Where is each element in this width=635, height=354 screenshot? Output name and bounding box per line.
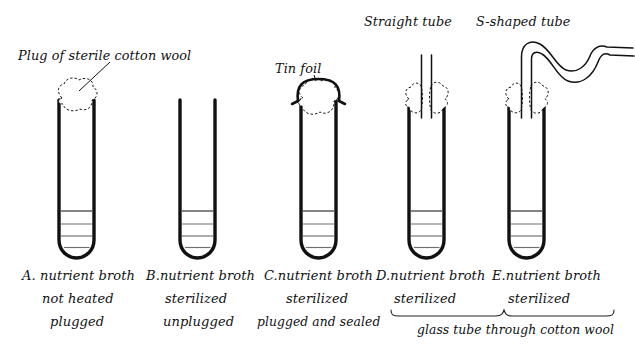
tube-c-group: Tin foil C.nutrient broth sterilized plu…	[257, 61, 380, 329]
diagram-canvas: Plug of sterile cotton wool A. nutrient …	[0, 0, 635, 354]
straight-tube-label: Straight tube	[364, 14, 452, 29]
tube-b-glass	[180, 100, 215, 258]
s-shaped-glass-tube-outer-wall	[532, 52, 635, 118]
brace-group: glass tube through cotton wool	[391, 310, 614, 337]
tube-a-glass	[59, 100, 94, 258]
tube-a-group: Plug of sterile cotton wool A. nutrient …	[17, 48, 191, 329]
tube-d-caption-line1: D.nutrient broth	[375, 268, 485, 283]
tube-c-caption-line1: C.nutrient broth	[264, 268, 373, 283]
tube-e-glass	[509, 100, 544, 258]
tube-a-caption-line2: not heated	[42, 291, 114, 306]
tube-c-caption-line3: plugged and sealed	[257, 315, 380, 329]
tube-b-caption-line2: sterilized	[165, 291, 227, 306]
tube-d-group: Straight tube D.nutrient broth sterilize…	[364, 14, 485, 306]
tube-a-caption-line1: A. nutrient broth	[21, 268, 135, 283]
tube-d-glass	[409, 100, 444, 258]
tube-d-caption-line2: sterilized	[394, 291, 456, 306]
tube-b-caption-line3: unplugged	[163, 314, 234, 329]
cotton-wool-leader-line	[79, 62, 110, 91]
tube-a-caption-line3: plugged	[50, 314, 104, 329]
glass-tube-brace	[391, 310, 614, 316]
tube-b-group: B.nutrient broth sterilized unplugged	[145, 100, 255, 329]
tube-c-glass	[301, 100, 336, 258]
tube-c-cotton-wool	[299, 79, 339, 114]
tube-c-caption-line2: sterilized	[286, 291, 348, 306]
tube-e-caption-line1: E.nutrient broth	[491, 268, 601, 283]
tube-e-caption-line2: sterilized	[508, 291, 570, 306]
brace-label: glass tube through cotton wool	[417, 323, 614, 337]
cotton-wool-label: Plug of sterile cotton wool	[17, 48, 191, 63]
s-shaped-tube-label: S-shaped tube	[476, 14, 570, 29]
tube-e-group: S-shaped tube E.nutrient broth sterilize…	[476, 14, 634, 306]
tin-foil-label: Tin foil	[275, 61, 321, 76]
tube-a-cotton-wool	[58, 78, 97, 111]
tube-b-caption-line1: B.nutrient broth	[145, 268, 255, 283]
experiment-diagram: Plug of sterile cotton wool A. nutrient …	[0, 0, 635, 354]
